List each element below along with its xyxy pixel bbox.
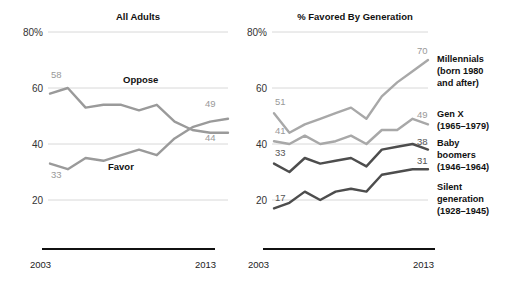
- ytick-label-60: 60: [32, 83, 44, 94]
- series-line-silent-generation: [274, 169, 428, 208]
- legend-millennials-line3: and after): [437, 78, 479, 88]
- ytick-label-20-right: 20: [256, 195, 268, 206]
- xtick-label-2003-right: 2003: [248, 259, 269, 270]
- panel-by-generation: % Favored By Generation 80% 60 40 20 51 …: [247, 11, 489, 270]
- ytick-label-80-right: 80%: [247, 27, 267, 38]
- value-label-oppose-start: 58: [51, 69, 62, 80]
- value-label-silent-generation-start: 17: [275, 192, 286, 203]
- chart-svg: All Adults 80% 60 40 20 Oppose Favor 58 …: [0, 0, 507, 287]
- xtick-label-2003-left: 2003: [30, 259, 51, 270]
- legend-baby-boomers-line3: (1946–1964): [437, 162, 489, 172]
- legend-item-millennials: Millennials (born 1980 and after): [437, 54, 484, 88]
- series-line-baby-boomers: [274, 144, 428, 172]
- figure-container: All Adults 80% 60 40 20 Oppose Favor 58 …: [0, 0, 507, 287]
- panel-title-all-adults: All Adults: [116, 11, 160, 22]
- value-label-silent-generation-end: 31: [417, 155, 428, 166]
- ytick-label-60-right: 60: [256, 83, 268, 94]
- series-label-favor: Favor: [108, 161, 134, 172]
- panel-all-adults: All Adults 80% 60 40 20 Oppose Favor 58 …: [23, 11, 228, 270]
- legend-millennials-line2: (born 1980: [437, 66, 483, 76]
- legend-silent-generation-line1: Silent: [437, 182, 462, 192]
- xtick-label-2013-right: 2013: [413, 259, 434, 270]
- legend-genx-line1: Gen X: [437, 109, 464, 119]
- ytick-label-40-right: 40: [256, 139, 268, 150]
- value-label-baby-boomers-start: 33: [275, 147, 286, 158]
- value-label-baby-boomers-end: 38: [417, 136, 428, 147]
- xtick-label-2013-left: 2013: [195, 259, 216, 270]
- value-label-millennials-start: 51: [275, 96, 286, 107]
- legend-item-silent-generation: Silent generation (1928–1945): [437, 182, 489, 216]
- legend-item-genx: Gen X (1965–1979): [437, 109, 489, 131]
- value-label-genx-end: 49: [417, 109, 428, 120]
- series-line-genx: [274, 119, 428, 144]
- ytick-label-20: 20: [32, 195, 44, 206]
- ytick-label-40: 40: [32, 139, 44, 150]
- value-label-favor-start: 33: [51, 169, 62, 180]
- value-label-genx-start: 41: [275, 125, 286, 136]
- value-label-oppose-end: 44: [205, 132, 216, 143]
- legend-item-baby-boomers: Baby boomers (1946–1964): [437, 138, 489, 172]
- series-line-oppose: [50, 88, 228, 133]
- value-label-favor-end: 49: [205, 98, 216, 109]
- legend-silent-generation-line2: generation: [437, 194, 484, 204]
- ytick-label-80: 80%: [23, 27, 43, 38]
- legend-genx-line2: (1965–1979): [437, 121, 489, 131]
- legend-baby-boomers-line1: Baby: [437, 138, 460, 148]
- legend-silent-generation-line3: (1928–1945): [437, 206, 489, 216]
- value-label-millennials-end: 70: [417, 45, 428, 56]
- series-line-millennials: [274, 60, 428, 133]
- legend-millennials-line1: Millennials: [437, 54, 484, 64]
- panel-title-by-generation: % Favored By Generation: [297, 11, 413, 22]
- series-label-oppose: Oppose: [123, 74, 158, 85]
- legend-baby-boomers-line2: boomers: [437, 150, 476, 160]
